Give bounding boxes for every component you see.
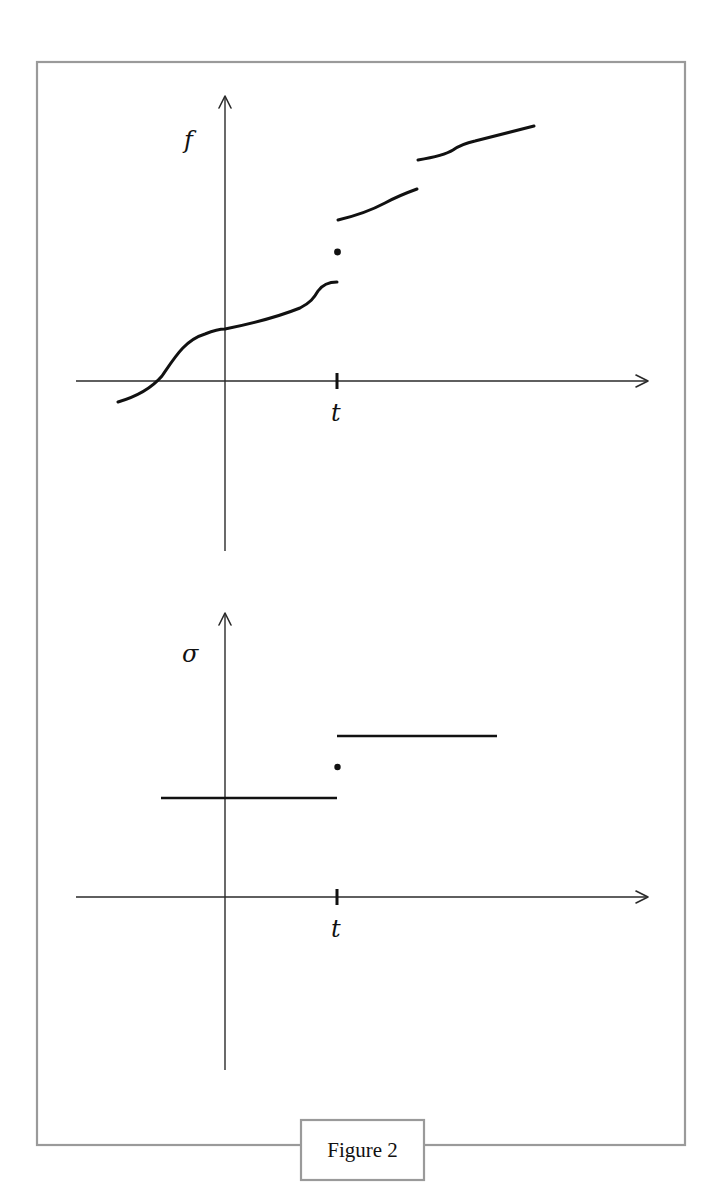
figure-frame (37, 62, 685, 1145)
f-curve-middle (338, 189, 417, 220)
f-curve-left (118, 282, 337, 402)
caption-text: Figure 2 (327, 1138, 398, 1162)
figure-canvas: t f t σ Figure 2 (0, 0, 722, 1192)
f-point-at-t (334, 249, 341, 256)
sigma-point-at-t (334, 764, 340, 770)
bottom-x-tick-label: t (331, 915, 341, 943)
top-panel: t f (76, 96, 648, 551)
bottom-panel: t σ (76, 613, 648, 1070)
f-curve-right (418, 126, 534, 160)
top-x-tick-label: t (331, 399, 341, 427)
bottom-y-label: σ (182, 640, 199, 668)
figure-caption: Figure 2 (301, 1120, 424, 1180)
top-y-label: f (182, 126, 197, 154)
